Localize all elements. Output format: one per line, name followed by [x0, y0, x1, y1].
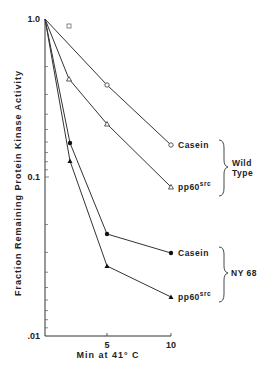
- series-ny68-pp60src: [45, 19, 174, 299]
- x-tick-label-10: 10: [166, 340, 176, 350]
- legend-ny68-pp60src: pp60src: [178, 290, 211, 302]
- group-label-wild: Wild: [232, 158, 252, 168]
- brace-wild-type: [219, 140, 228, 196]
- group-label-type: Type: [232, 168, 253, 178]
- group-label-ny68: NY 68: [231, 268, 257, 278]
- brace-ny68: [219, 247, 228, 302]
- chart: 1.0 0.1 .01 5 10 Min at 41° C Fraction R…: [0, 0, 269, 375]
- series-ny68-casein: [45, 19, 173, 255]
- outlier-square-marker: [67, 24, 71, 28]
- legend-wt-casein: Casein: [178, 140, 209, 150]
- y-tick-label-0.1: 0.1: [27, 172, 40, 182]
- legend-ny68-casein: Casein: [178, 248, 209, 258]
- y-tick-label-0.01: .01: [27, 331, 40, 341]
- y-minor-ticks: [45, 67, 49, 328]
- y-tick-label-1: 1.0: [27, 14, 40, 24]
- legend-wt-pp60src: pp60src: [178, 180, 211, 192]
- x-axis-label: Min at 41° C: [76, 350, 139, 360]
- x-tick-label-5: 5: [104, 340, 109, 350]
- y-axis-label: Fraction Remaining Protein Kinase Activi…: [13, 70, 23, 296]
- series-wt-pp60src: [45, 19, 174, 189]
